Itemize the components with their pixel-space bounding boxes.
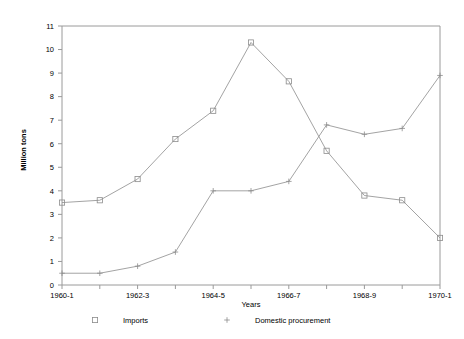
data-series-layer: [59, 40, 443, 276]
legend-entry[interactable]: Domestic procurement: [224, 316, 331, 325]
y-tick-label: 2: [50, 234, 54, 243]
legend-entry[interactable]: Imports: [92, 316, 148, 325]
legend-label: Domestic procurement: [255, 316, 331, 325]
data-point-marker: [362, 132, 368, 138]
data-point-marker: [248, 188, 254, 194]
x-tick-label: 1964-5: [202, 291, 225, 300]
series-domestic-procurement: [59, 73, 443, 276]
y-axis-ticks: 01234567891011: [46, 22, 62, 290]
y-tick-label: 8: [50, 92, 54, 101]
y-tick-label: 6: [50, 140, 54, 149]
x-tick-label: 1966-7: [277, 291, 300, 300]
plot-frame: [62, 26, 440, 285]
square-marker-icon: [92, 317, 97, 322]
line-chart: Million tons 01234567891011 1960-11962-3…: [0, 0, 464, 339]
y-tick-label: 3: [50, 210, 54, 219]
data-point-marker: [210, 188, 216, 194]
series-line: [62, 42, 440, 237]
legend-label: Imports: [123, 316, 148, 325]
data-point-marker: [324, 122, 330, 128]
x-tick-label: 1960-1: [50, 291, 73, 300]
x-tick-label: 1970-1: [428, 291, 451, 300]
data-point-marker: [286, 179, 292, 185]
x-axis-title: Years: [242, 300, 261, 309]
x-tick-label: 1968-9: [353, 291, 376, 300]
data-point-marker: [135, 263, 141, 269]
series-imports: [59, 40, 442, 241]
series-line: [62, 75, 440, 273]
y-axis-title: Million tons: [19, 129, 28, 171]
y-tick-label: 1: [50, 257, 54, 266]
y-tick-label: 10: [46, 45, 54, 54]
data-point-marker: [437, 73, 443, 79]
data-point-marker: [173, 249, 179, 255]
y-tick-label: 4: [50, 187, 54, 196]
y-tick-label: 0: [50, 281, 54, 290]
y-tick-label: 7: [50, 116, 54, 125]
data-point-marker: [97, 270, 103, 276]
y-tick-label: 5: [50, 163, 54, 172]
data-point-marker: [399, 126, 405, 132]
y-tick-label: 9: [50, 69, 54, 78]
x-axis-ticks: 1960-11962-31964-51966-71968-91970-1: [50, 285, 451, 300]
chart-canvas: Million tons 01234567891011 1960-11962-3…: [0, 0, 464, 339]
data-point-marker: [59, 270, 65, 276]
x-tick-label: 1962-3: [126, 291, 149, 300]
plus-marker-icon: [224, 317, 230, 323]
y-tick-label: 11: [46, 22, 54, 31]
chart-legend: ImportsDomestic procurement: [92, 316, 331, 325]
